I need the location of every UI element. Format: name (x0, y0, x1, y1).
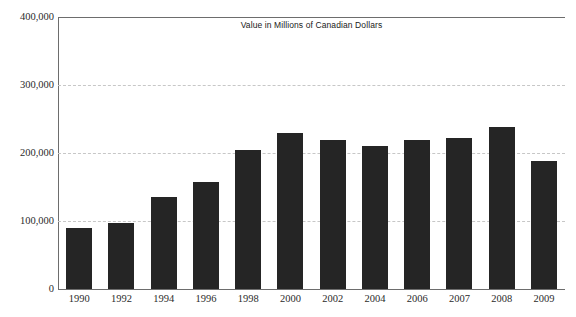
x-axis-tick-label: 2008 (479, 292, 525, 306)
x-axis-tick-label: 1992 (98, 292, 144, 306)
bar (277, 133, 303, 289)
x-axis-tick-label: 2004 (352, 292, 398, 306)
x-axis-line (58, 289, 565, 290)
bar (235, 150, 261, 289)
bar (404, 140, 430, 289)
y-axis-tick-label: 0 (2, 284, 54, 295)
y-axis-tick-label: 200,000 (2, 148, 54, 159)
bar (489, 127, 515, 289)
bar-chart: 0100,000200,000300,000400,000 Value in M… (0, 0, 576, 317)
bars-layer (58, 17, 565, 289)
y-axis-tick-label: 300,000 (2, 80, 54, 91)
x-axis-tick-labels: 1990199219941996199820002002200420062007… (58, 292, 565, 312)
bar (66, 228, 92, 289)
y-axis-tick-label: 400,000 (2, 12, 54, 23)
bar (151, 197, 177, 289)
y-axis-tick-labels: 0100,000200,000300,000400,000 (0, 0, 54, 317)
x-axis-tick-label: 2000 (267, 292, 313, 306)
bar (531, 161, 557, 289)
x-axis-tick-label: 1994 (141, 292, 187, 306)
x-axis-tick-label: 2006 (394, 292, 440, 306)
x-axis-tick-label: 2007 (436, 292, 482, 306)
bar (362, 146, 388, 289)
bar (193, 182, 219, 289)
bar (108, 223, 134, 289)
x-axis-tick-label: 2002 (310, 292, 356, 306)
x-axis-tick-label: 1996 (183, 292, 229, 306)
x-axis-tick-label: 1998 (225, 292, 271, 306)
bar (446, 138, 472, 289)
x-axis-tick-label: 2009 (521, 292, 567, 306)
bar (320, 140, 346, 289)
y-axis-tick-label: 100,000 (2, 216, 54, 227)
x-axis-tick-label: 1990 (56, 292, 102, 306)
